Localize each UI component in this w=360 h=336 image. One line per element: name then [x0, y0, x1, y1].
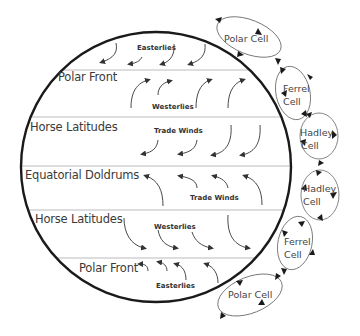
wind-label-westerlies-south: Westerlies: [154, 224, 196, 231]
cell-label-polar-north: Polar Cell: [224, 34, 268, 44]
wind-label-westerlies-north: Westerlies: [152, 104, 194, 111]
zone-label-equatorial-doldrums: Equatorial Doldrums: [25, 170, 139, 182]
wind-label-easterlies-south: Easterlies: [156, 283, 195, 290]
zone-label-polar-front-north: Polar Front: [58, 72, 117, 84]
cell-label-polar-south: Polar Cell: [228, 290, 272, 300]
wind-label-trade-winds-south: Trade Winds: [190, 195, 239, 202]
cell-label-ferrel-south-line1: Ferrel: [284, 237, 311, 247]
zone-label-horse-latitudes-north: Horse Latitudes: [30, 122, 117, 134]
cell-label-ferrel-north-line1: Ferrel: [283, 84, 310, 94]
cell-label-hadley-south-line2: Cell: [303, 197, 321, 207]
cell-label-hadley-north-line2: Cell: [301, 141, 319, 151]
zone-label-polar-front-south: Polar Front: [79, 263, 138, 275]
atmospheric-circulation-diagram: Polar Front Horse Latitudes Equatorial D…: [0, 0, 360, 336]
zone-label-horse-latitudes-south: Horse Latitudes: [35, 214, 122, 226]
cell-arrowheads: [215, 17, 337, 319]
wind-arrows: [102, 43, 262, 283]
cell-label-hadley-south-line1: Hadley: [303, 184, 336, 194]
wind-label-easterlies-north: Easterlies: [137, 45, 176, 52]
cell-label-ferrel-south-line2: Cell: [284, 250, 302, 260]
cell-label-ferrel-north-line2: Cell: [283, 97, 301, 107]
cell-label-hadley-north-line1: Hadley: [300, 128, 333, 138]
wind-label-trade-winds-north: Trade Winds: [154, 128, 203, 135]
